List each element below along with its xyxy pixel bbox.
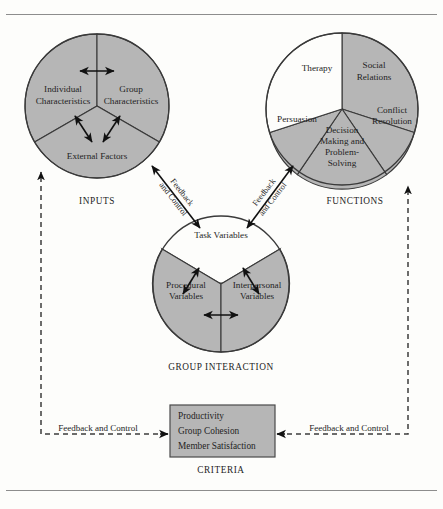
dashed-loop-criteria-to-inputs[interactable]	[41, 172, 167, 434]
functions-label-decision-line2: Making and	[320, 136, 365, 146]
criteria-caption: CRITERIA	[197, 465, 244, 475]
dashed-loop-criteria-to-functions[interactable]	[278, 186, 408, 434]
functions-label-persuasion: Persuasion	[277, 114, 317, 124]
bottom-left-feedback-label: Feedback and Control	[58, 423, 138, 433]
functions-label-decision-line3: Problem-	[325, 147, 359, 157]
inputs-pie: Individual Characteristics Group Charact…	[25, 34, 169, 206]
functions-caption: FUNCTIONS	[326, 196, 383, 206]
functions-pie: Social Relations Conflict Resolution Dec…	[266, 33, 418, 206]
functions-label-decision-line1: Decision	[326, 125, 359, 135]
group-interaction-label-interpersonal-line1: Interpersonal	[233, 280, 282, 290]
bottom-right-feedback-label: Feedback and Control	[309, 423, 389, 433]
group-interaction-label-procedural-line2: Variables	[169, 291, 204, 301]
functions-label-conflict-line1: Conflict	[377, 105, 408, 115]
functions-label-conflict-line2: Resolution	[372, 116, 412, 126]
inputs-label-group-line1: Group	[119, 84, 143, 94]
inputs-label-individual-line1: Individual	[44, 84, 82, 94]
group-interaction-caption: GROUP INTERACTION	[168, 362, 273, 372]
inputs-caption: INPUTS	[79, 196, 115, 206]
criteria-item-productivity: Productivity	[178, 411, 224, 421]
functions-label-social-line1: Social	[363, 60, 386, 70]
group-interaction-label-task-variables: Task Variables	[194, 230, 248, 240]
criteria-item-group-cohesion: Group Cohesion	[178, 426, 240, 436]
left-diagonal-feedback-label: Feedback and Control	[157, 174, 198, 218]
criteria-item-member-satisfaction: Member Satisfaction	[178, 441, 256, 451]
functions-label-decision-line4: Solving	[328, 158, 357, 168]
diagram-canvas: Individual Characteristics Group Charact…	[0, 0, 443, 509]
inputs-label-individual-line2: Characteristics	[36, 96, 91, 106]
group-interaction-pie: Task Variables Procedural Variables Inte…	[152, 216, 289, 372]
criteria-block: Productivity Group Cohesion Member Satis…	[170, 405, 275, 475]
inputs-label-group-line2: Characteristics	[104, 96, 159, 106]
functions-label-social-line2: Relations	[357, 72, 392, 82]
inputs-label-external-factors: External Factors	[67, 151, 128, 161]
functions-label-therapy: Therapy	[302, 63, 333, 73]
diagram-figure: Individual Characteristics Group Charact…	[0, 0, 443, 509]
